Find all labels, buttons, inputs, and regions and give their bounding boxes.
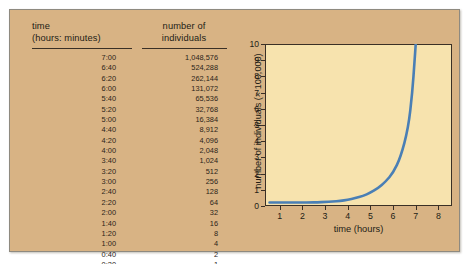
cell-count: 4,096 <box>132 136 218 146</box>
y-axis-tick <box>261 93 265 94</box>
cell-count: 32 <box>132 208 218 218</box>
x-axis-tick-label: 3 <box>317 211 333 221</box>
table-row: 3:401,024 <box>32 156 228 166</box>
cell-time: 3:20 <box>40 167 116 177</box>
x-axis-tick-label: 2 <box>294 211 310 221</box>
cell-time: 4:40 <box>40 125 116 135</box>
curve-svg <box>265 44 452 206</box>
cell-count: 64 <box>132 198 218 208</box>
x-axis-tick <box>370 206 371 210</box>
cell-count: 262,144 <box>132 74 218 84</box>
table-row: 0:201 <box>32 260 228 264</box>
y-axis-tick-label: 7 <box>239 88 259 98</box>
cell-time: 1:40 <box>40 219 116 229</box>
cell-count: 65,536 <box>132 94 218 104</box>
table-row: 7:001,048,576 <box>32 53 228 63</box>
cell-count: 8 <box>132 229 218 239</box>
cell-time: 4:20 <box>40 136 116 146</box>
column-header-time: time (hours: minutes) <box>32 20 124 44</box>
table-row: 3:00256 <box>32 177 228 187</box>
cell-time: 0:20 <box>40 260 116 264</box>
column-header-time-line2: (hours: minutes) <box>32 32 124 44</box>
x-axis-tick-label: 5 <box>362 211 378 221</box>
x-axis-tick <box>348 206 349 210</box>
cell-time: 2:40 <box>40 187 116 197</box>
cell-time: 7:00 <box>40 53 116 63</box>
cell-time: 0:40 <box>40 250 116 260</box>
column-header-time-line1: time <box>32 21 50 31</box>
y-axis-tick-label: 1 <box>239 185 259 195</box>
y-axis-tick-label: 5 <box>239 120 259 130</box>
data-table: time (hours: minutes) number of individu… <box>32 20 228 243</box>
cell-count: 2 <box>132 250 218 260</box>
x-axis-tick <box>325 206 326 210</box>
figure-root: time (hours: minutes) number of individu… <box>0 0 471 264</box>
y-axis-tick <box>261 109 265 110</box>
cell-count: 4 <box>132 239 218 249</box>
x-axis-tick <box>393 206 394 210</box>
cell-time: 4:00 <box>40 146 116 156</box>
cell-count: 256 <box>132 177 218 187</box>
table-row: 6:40524,288 <box>32 63 228 73</box>
table-row: 2:40128 <box>32 187 228 197</box>
y-axis-tick-label: 0 <box>239 201 259 211</box>
y-axis-tick <box>261 141 265 142</box>
x-axis-label: time (hours) <box>265 224 452 234</box>
cell-time: 3:00 <box>40 177 116 187</box>
table-row: 0:402 <box>32 250 228 260</box>
table-row: 4:204,096 <box>32 136 228 146</box>
cell-time: 3:40 <box>40 156 116 166</box>
cell-time: 2:20 <box>40 198 116 208</box>
table-row: 6:20262,144 <box>32 74 228 84</box>
x-axis-tick-label: 6 <box>385 211 401 221</box>
y-axis-tick <box>261 190 265 191</box>
cell-time: 6:40 <box>40 63 116 73</box>
y-axis-tick <box>261 44 265 45</box>
y-axis-tick <box>261 206 265 207</box>
x-axis-tick <box>438 206 439 210</box>
x-axis-tick-label: 1 <box>272 211 288 221</box>
cell-time: 5:20 <box>40 105 116 115</box>
table-row: 4:408,912 <box>32 125 228 135</box>
column-header-count-line1: number of <box>163 21 206 31</box>
table-row: 1:4016 <box>32 219 228 229</box>
cell-count: 512 <box>132 167 218 177</box>
table-body: 7:001,048,5766:40524,2886:20262,1446:001… <box>32 53 228 264</box>
cell-count: 32,768 <box>132 105 218 115</box>
cell-count: 131,072 <box>132 84 218 94</box>
growth-chart: number of individuals (× 100,000) time (… <box>232 32 460 248</box>
y-axis-tick <box>261 157 265 158</box>
cell-count: 1,048,576 <box>132 53 218 63</box>
x-axis-tick-label: 8 <box>430 211 446 221</box>
x-axis-tick <box>416 206 417 210</box>
table-row: 6:00131,072 <box>32 84 228 94</box>
y-axis-tick <box>261 125 265 126</box>
table-row: 5:2032,768 <box>32 105 228 115</box>
y-axis-tick-label: 4 <box>239 136 259 146</box>
table-row: 3:20512 <box>32 167 228 177</box>
y-axis-tick <box>261 174 265 175</box>
cell-count: 8,912 <box>132 125 218 135</box>
y-axis-tick <box>261 76 265 77</box>
table-header: time (hours: minutes) number of individu… <box>32 20 228 56</box>
table-row: 1:208 <box>32 229 228 239</box>
table-row: 5:0016,384 <box>32 115 228 125</box>
table-row: 2:0032 <box>32 208 228 218</box>
cell-count: 524,288 <box>132 63 218 73</box>
x-axis-tick <box>280 206 281 210</box>
cell-time: 6:00 <box>40 84 116 94</box>
header-rule-time <box>32 48 132 49</box>
y-axis-tick <box>261 60 265 61</box>
figure-card: time (hours: minutes) number of individu… <box>9 9 460 252</box>
table-row: 2:2064 <box>32 198 228 208</box>
y-axis-tick-label: 6 <box>239 104 259 114</box>
cell-count: 16 <box>132 219 218 229</box>
cell-count: 128 <box>132 187 218 197</box>
y-axis-tick-label: 3 <box>239 152 259 162</box>
y-axis-tick-label: 8 <box>239 71 259 81</box>
column-header-count-line2: individuals <box>140 32 228 44</box>
x-axis-tick <box>302 206 303 210</box>
cell-time: 5:00 <box>40 115 116 125</box>
table-row: 1:004 <box>32 239 228 249</box>
cell-count: 1 <box>132 260 218 264</box>
